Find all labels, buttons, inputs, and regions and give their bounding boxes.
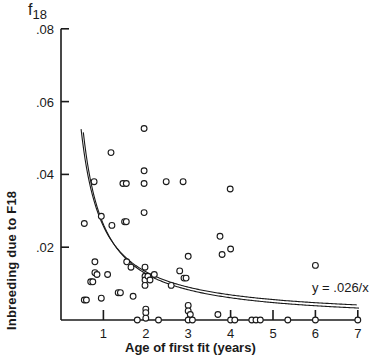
y-tick-label: .02 [36,240,54,255]
scatter-plot: .02.04.06.081234567 y = .026/x [0,0,392,361]
data-point [217,233,223,239]
x-axis-label: Age of first fit (years) [125,340,256,355]
y-tick-label: .06 [36,95,54,110]
data-point [118,290,124,296]
data-point [147,277,153,283]
data-point [105,272,111,278]
data-point [123,181,129,187]
curve-label: y = .026/x [312,280,369,295]
data-point [215,312,221,318]
y-tick-label: .08 [36,22,54,37]
data-point [84,297,90,303]
data-point [257,317,263,323]
data-point [219,252,225,258]
data-point [177,268,183,274]
data-point [143,315,149,321]
data-point [163,179,169,185]
data-point [355,317,361,323]
y-axis-symbol: f18 [28,1,47,22]
data-point [313,317,319,323]
data-point [109,223,115,229]
data-point [81,221,87,227]
data-point [141,181,147,187]
data-point [183,275,189,281]
data-point [98,213,104,219]
data-point [123,219,129,225]
curve-line [81,129,357,305]
x-tick-label: 2 [142,326,149,341]
data-point [185,253,191,259]
y-axis-label: Inbreeding due to F18 [4,191,19,330]
data-point [141,168,147,174]
data-point [285,317,291,323]
data-point [190,317,196,323]
data-point [227,186,233,192]
data-point [313,263,319,269]
data-point [142,283,148,289]
x-tick-label: 7 [354,326,361,341]
x-tick-label: 3 [185,326,192,341]
data-point [98,295,104,301]
data-point [124,259,130,265]
data-point [92,259,98,265]
x-tick-label: 1 [100,326,107,341]
data-point [142,264,148,270]
data-point [128,264,134,270]
x-tick-label: 5 [269,326,276,341]
y-symbol-subscript: 18 [32,7,46,22]
data-point [143,310,149,316]
data-point [232,317,238,323]
data-point [90,279,96,285]
data-point [134,317,140,323]
data-point [130,293,136,299]
data-point [185,303,191,309]
data-point [141,210,147,216]
data-point [228,246,234,252]
x-tick-label: 6 [312,326,319,341]
data-point [91,179,97,185]
data-point [151,272,157,278]
data-point [180,179,186,185]
data-point [141,126,147,132]
x-tick-label: 4 [227,326,234,341]
data-point [187,312,193,318]
data-point [108,150,114,156]
data-point [94,272,100,278]
data-point [156,317,162,323]
data-point [168,283,174,289]
y-tick-label: .04 [36,167,54,182]
